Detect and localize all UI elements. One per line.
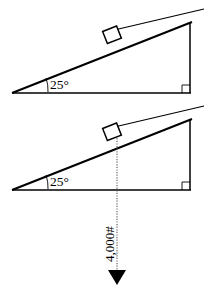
- force-arrowhead: [108, 270, 126, 285]
- incline-surface-top: [12, 22, 192, 93]
- right-angle-marker-bottom: [182, 182, 190, 190]
- force-magnitude-label: 4,000#: [102, 226, 118, 262]
- angle-arc-bottom: [46, 175, 48, 189]
- figure-canvas: 25° 25° 4,0: [0, 0, 211, 293]
- incline-surface-bottom: [12, 119, 192, 190]
- inclined-plane-top-group: [12, 9, 204, 93]
- angle-arc-top: [46, 78, 48, 92]
- angle-label-bottom: 25°: [50, 174, 69, 189]
- angle-label-top: 25°: [50, 77, 69, 92]
- right-angle-marker-top: [182, 85, 190, 93]
